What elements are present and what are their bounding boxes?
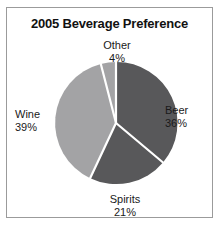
pie-label-wine-value: 39% bbox=[15, 121, 63, 134]
pie-chart: Other 4% Beer 36% Wine 39% Spirits 21% bbox=[7, 8, 212, 217]
pie-label-other-value: 4% bbox=[85, 52, 149, 65]
pie-label-other-name: Other bbox=[85, 39, 149, 52]
pie-label-spirits: Spirits 21% bbox=[93, 193, 157, 218]
pie-label-spirits-value: 21% bbox=[93, 206, 157, 219]
pie-label-beer-name: Beer bbox=[165, 104, 215, 117]
pie-label-spirits-name: Spirits bbox=[93, 193, 157, 206]
pie-label-beer: Beer 36% bbox=[165, 104, 215, 129]
pie-label-wine: Wine 39% bbox=[15, 108, 63, 133]
pie-label-wine-name: Wine bbox=[15, 108, 63, 121]
pie-label-other: Other 4% bbox=[85, 39, 149, 64]
chart-card: 2005 Beverage Preference Other 4% bbox=[6, 7, 213, 218]
pie-label-beer-value: 36% bbox=[165, 117, 215, 130]
